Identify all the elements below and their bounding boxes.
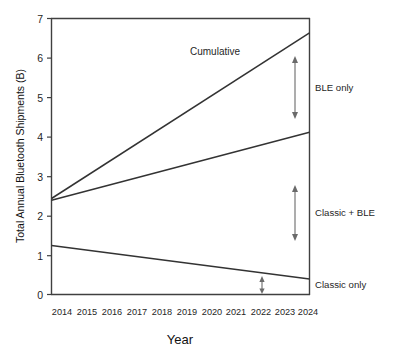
annotation-classic-plus-ble xyxy=(292,185,298,241)
x-tick-labels: 2014 2015 2016 2017 2018 2019 2020 2021 … xyxy=(52,307,318,317)
plot-frame xyxy=(51,18,310,295)
y-tick-label: 4 xyxy=(37,131,43,143)
x-tick-label: 2017 xyxy=(127,307,147,317)
annotation-ble-only xyxy=(292,56,298,119)
x-tick-label: 2014 xyxy=(52,307,72,317)
x-tick-label: 2019 xyxy=(177,307,197,317)
x-tick-label: 2018 xyxy=(152,307,172,317)
series-label-cumulative: Cumulative xyxy=(190,46,240,57)
line-chart: 7 6 5 4 3 2 1 0 2014 2015 2016 2017 2018… xyxy=(0,0,396,356)
annotation-label-ble-only: BLE only xyxy=(315,82,354,93)
y-tick-label: 1 xyxy=(37,250,43,262)
y-tick-label: 6 xyxy=(37,52,43,64)
y-axis-title: Total Annual Bluetooth Shipments (B) xyxy=(14,69,26,243)
x-tick-label: 2024 xyxy=(298,307,318,317)
x-tick-label: 2016 xyxy=(102,307,122,317)
annotation-label-classic-only: Classic only xyxy=(315,279,366,290)
x-tick-label: 2020 xyxy=(202,307,222,317)
y-tick-label: 5 xyxy=(37,92,43,104)
y-tick-label: 0 xyxy=(37,289,43,301)
series-lines xyxy=(52,33,310,279)
y-tick-label: 3 xyxy=(37,171,43,183)
chart-figure: 7 6 5 4 3 2 1 0 2014 2015 2016 2017 2018… xyxy=(0,0,396,356)
y-tick-label: 2 xyxy=(37,210,43,222)
x-tick-label: 2022 xyxy=(251,307,271,317)
x-tick-label: 2021 xyxy=(226,307,246,317)
annotation-classic-only xyxy=(259,276,264,294)
x-tick-label: 2023 xyxy=(275,307,295,317)
y-tick-label: 7 xyxy=(37,13,43,25)
y-tick-labels: 7 6 5 4 3 2 1 0 xyxy=(37,13,43,301)
series-line-classic-only xyxy=(52,246,310,280)
x-axis-title: Year xyxy=(167,332,194,347)
annotation-label-classic-plus-ble: Classic + BLE xyxy=(315,207,375,218)
series-line-cumulative xyxy=(52,33,310,199)
x-tick-label: 2015 xyxy=(77,307,97,317)
series-line-classic-plus-ble xyxy=(52,132,310,200)
